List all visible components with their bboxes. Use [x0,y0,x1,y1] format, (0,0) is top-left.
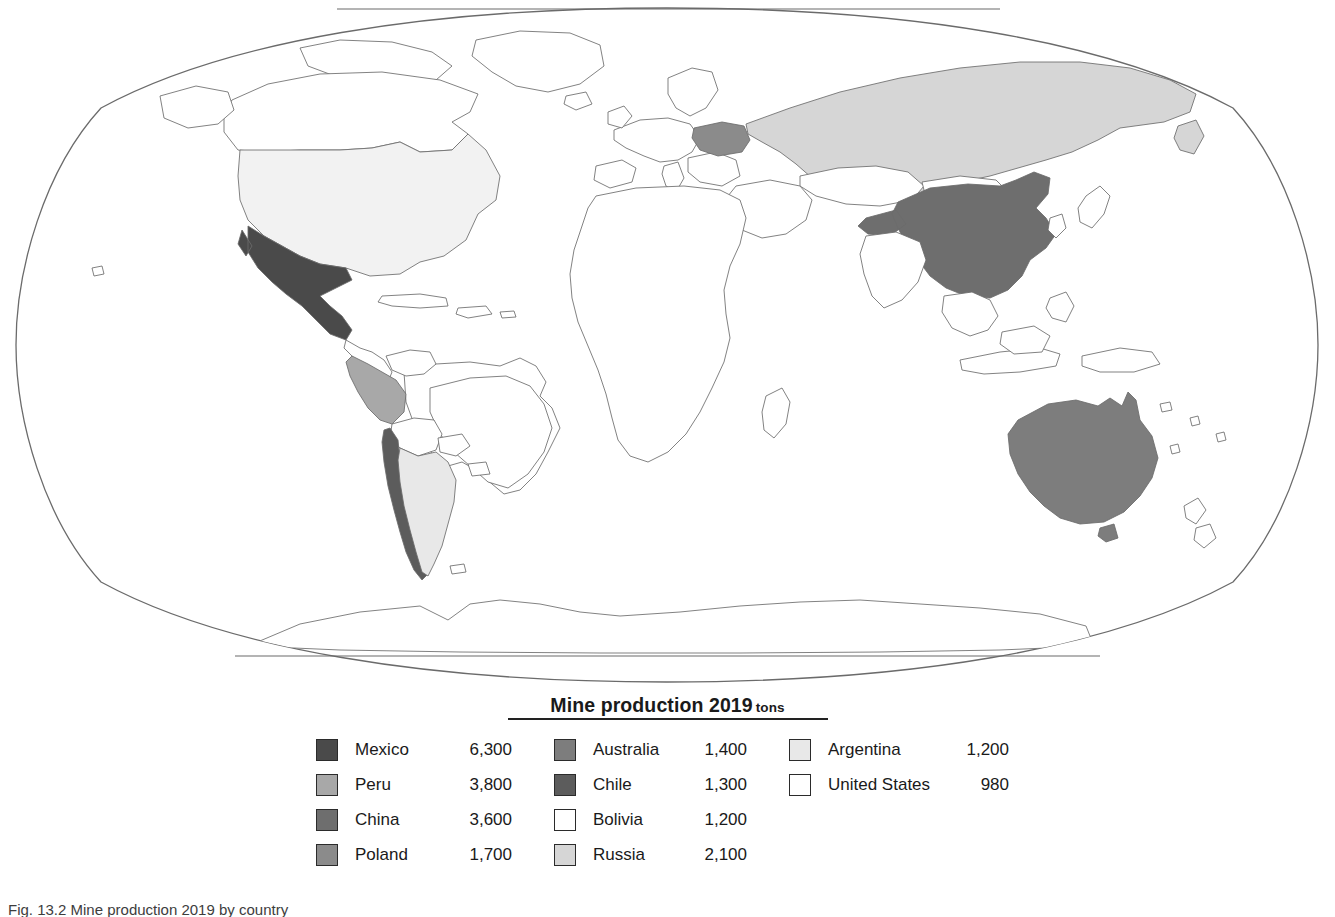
figure-caption: Fig. 13.2 Mine production 2019 by countr… [8,901,1108,917]
legend-columns: Mexico 6,300 Peru 3,800 China 3,600 Pola… [0,737,1335,868]
legend-item-australia: Australia 1,400 [554,737,789,763]
legend-label-poland: Poland [355,845,408,865]
legend-title: Mine production 2019tons [508,694,828,720]
legend-title-units: tons [753,700,785,715]
falkland-islands [450,564,466,574]
legend: Mine production 2019tons Mexico 6,300 Pe… [0,694,1335,894]
legend-item-united-states: United States 980 [789,772,1019,798]
legend-label-peru: Peru [355,775,391,795]
legend-value-argentina: 1,200 [966,740,1019,760]
legend-label-russia: Russia [593,845,645,865]
legend-label-chile: Chile [593,775,632,795]
legend-title-main: Mine production 2019 [550,694,752,716]
caribbean-puerto-rico [500,311,516,318]
legend-item-china: China 3,600 [316,807,554,833]
legend-swatch-australia [554,739,576,761]
legend-label-argentina: Argentina [828,740,901,760]
legend-item-argentina: Argentina 1,200 [789,737,1019,763]
legend-label-china: China [355,810,399,830]
legend-label-bolivia: Bolivia [593,810,643,830]
legend-value-russia: 2,100 [704,845,789,865]
legend-swatch-poland [316,844,338,866]
legend-value-bolivia: 1,200 [704,810,789,830]
world-map-svg [0,0,1335,690]
legend-swatch-united-states [789,774,811,796]
legend-item-poland: Poland 1,700 [316,842,554,868]
legend-item-russia: Russia 2,100 [554,842,789,868]
legend-swatch-bolivia [554,809,576,831]
legend-swatch-russia [554,844,576,866]
legend-column-1: Mexico 6,300 Peru 3,800 China 3,600 Pola… [316,737,554,868]
legend-value-china: 3,600 [469,810,554,830]
legend-label-united-states: United States [828,775,930,795]
legend-label-mexico: Mexico [355,740,409,760]
legend-item-mexico: Mexico 6,300 [316,737,554,763]
legend-item-chile: Chile 1,300 [554,772,789,798]
legend-column-3: Argentina 1,200 United States 980 [789,737,1019,798]
legend-value-mexico: 6,300 [469,740,554,760]
legend-swatch-china [316,809,338,831]
legend-value-united-states: 980 [981,775,1019,795]
legend-value-poland: 1,700 [469,845,554,865]
legend-value-australia: 1,400 [704,740,789,760]
figure-world-mine-production: Mine production 2019tons Mexico 6,300 Pe… [0,0,1335,917]
legend-item-bolivia: Bolivia 1,200 [554,807,789,833]
legend-swatch-chile [554,774,576,796]
legend-value-peru: 3,800 [469,775,554,795]
legend-item-peru: Peru 3,800 [316,772,554,798]
legend-swatch-argentina [789,739,811,761]
legend-swatch-mexico [316,739,338,761]
hawaii [92,266,104,276]
map-area [0,0,1335,690]
figure-caption-text: Fig. 13.2 Mine production 2019 by countr… [8,901,288,917]
legend-swatch-peru [316,774,338,796]
country-uruguay [468,462,490,476]
legend-column-2: Australia 1,400 Chile 1,300 Bolivia 1,20… [554,737,789,868]
legend-value-chile: 1,300 [704,775,789,795]
legend-label-australia: Australia [593,740,659,760]
